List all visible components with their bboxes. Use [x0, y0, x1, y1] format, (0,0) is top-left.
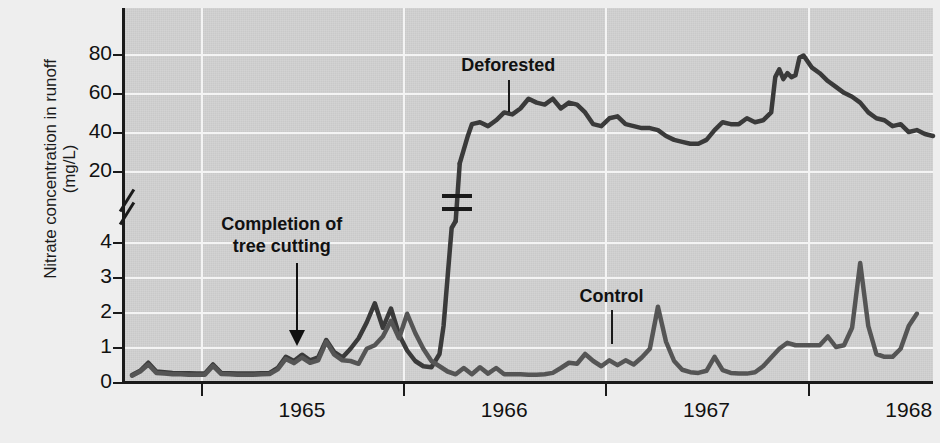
- y-axis-tick-label: 40: [56, 119, 112, 143]
- y-axis-tick-label: 20: [56, 158, 112, 182]
- series-line-control: [132, 263, 917, 376]
- x-axis-tick: [808, 384, 810, 396]
- annotation-arrow-shaft: [296, 263, 298, 333]
- annotation-arrow-head: [289, 330, 305, 346]
- y-axis-tick-label: 3: [56, 264, 112, 288]
- annotation-control-label: Control: [541, 286, 681, 308]
- x-axis-tick-label: 1965: [257, 398, 347, 422]
- y-axis-tick: [113, 54, 124, 56]
- y-axis-tick: [113, 277, 124, 279]
- x-axis-tick-label: 1968: [864, 398, 940, 422]
- y-axis-tick-label: 4: [56, 229, 112, 253]
- x-axis-line: [122, 381, 933, 384]
- annotation-line1: Completion of: [221, 214, 342, 234]
- y-axis-tick: [113, 132, 124, 134]
- y-axis-tick: [113, 242, 124, 244]
- y-axis-tick: [113, 93, 124, 95]
- y-axis-tick: [113, 171, 124, 173]
- annotation-completion-of-tree-cutting: Completion oftree cutting: [182, 214, 382, 257]
- y-axis-tick-label: 60: [56, 80, 112, 104]
- series-line-deforested: [456, 163, 460, 221]
- x-axis-tick: [605, 384, 607, 396]
- y-axis-tick: [113, 312, 124, 314]
- plot-area: Completion oftree cutting Deforested Con…: [124, 8, 933, 383]
- annotation-deforested-leader-line: [508, 80, 510, 112]
- y-axis-tick-label: 0: [56, 369, 112, 393]
- y-axis-tick-label: 2: [56, 299, 112, 323]
- y-axis-tick-label: 80: [56, 41, 112, 65]
- x-axis-tick: [201, 384, 203, 396]
- y-axis-tick-label: 1: [56, 334, 112, 358]
- annotation-control-leader-line: [611, 310, 613, 344]
- x-axis-tick-label: 1967: [661, 398, 751, 422]
- y-axis-break-symbol: [112, 190, 138, 224]
- x-axis-tick: [403, 384, 405, 396]
- annotation-line2: tree cutting: [233, 236, 331, 256]
- x-axis-tick-label: 1966: [459, 398, 549, 422]
- y-axis-tick: [113, 382, 124, 384]
- annotation-deforested-label: Deforested: [418, 55, 598, 77]
- y-axis-tick: [113, 347, 124, 349]
